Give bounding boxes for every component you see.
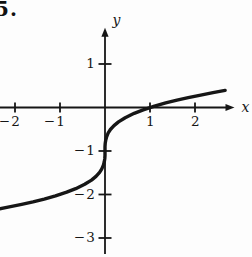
x-axis-tick-label: 1 — [146, 113, 156, 129]
y-axis-arrow-icon — [101, 28, 108, 37]
x-axis-label: x — [242, 99, 250, 115]
worksheet-page: 5. −2−1121−1−2−3xy — [0, 0, 252, 257]
x-axis-tick-label: −1 — [44, 113, 66, 129]
y-axis-tick-label: −1 — [74, 142, 96, 158]
x-axis-tick-label: 2 — [191, 113, 201, 129]
y-axis-label: y — [112, 12, 122, 28]
function-graph: −2−1121−1−2−3xy — [0, 0, 252, 257]
y-axis-tick-label: −3 — [74, 229, 96, 245]
x-axis-arrow-icon — [225, 104, 234, 111]
y-axis-tick-label: 1 — [86, 55, 96, 71]
x-axis-tick-label: −2 — [0, 113, 21, 129]
